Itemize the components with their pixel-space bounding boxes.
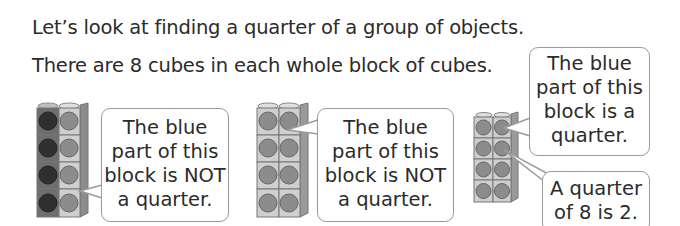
bubble-2-line-3: block is NOT — [318, 164, 453, 188]
bubble-2-line-4: a quarter. — [318, 188, 453, 212]
bubble-1-line-1: The blue — [102, 116, 228, 140]
bubble-2-line-2: part of this — [318, 140, 453, 164]
bubble-1-line-2: part of this — [102, 140, 228, 164]
speech-bubble-1: The blue part of this block is NOT a qua… — [101, 108, 229, 222]
bubble-3-line-4: quarter. — [530, 124, 649, 148]
bubble-1-line-3: block is NOT — [102, 164, 228, 188]
speech-bubble-4: A quarter of 8 is 2. — [542, 171, 650, 226]
bubble-3-line-1: The blue — [530, 52, 649, 76]
bubble-4-line-2: of 8 is 2. — [543, 201, 649, 225]
bubble-2-line-1: The blue — [318, 116, 453, 140]
bubble-1-line-4: a quarter. — [102, 188, 228, 212]
bubble-3-line-3: block is a — [530, 100, 649, 124]
speech-bubble-3: The blue part of this block is a quarter… — [529, 47, 650, 156]
speech-bubble-2: The blue part of this block is NOT a qua… — [317, 108, 454, 222]
bubble-3-line-2: part of this — [530, 76, 649, 100]
bubble-4-line-1: A quarter — [543, 177, 649, 201]
